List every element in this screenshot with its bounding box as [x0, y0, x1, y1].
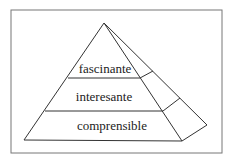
base-front-edge: [24, 140, 182, 141]
level-label-middle: interesante: [76, 89, 133, 104]
divider-bottom-side: [163, 98, 180, 111]
divider-top-side: [140, 71, 153, 78]
base-side-edge: [182, 125, 207, 141]
level-label-bottom: comprensible: [77, 118, 147, 133]
pyramid-diagram: fascinante interesante comprensible: [0, 0, 233, 163]
level-label-top: fascinante: [79, 61, 132, 76]
